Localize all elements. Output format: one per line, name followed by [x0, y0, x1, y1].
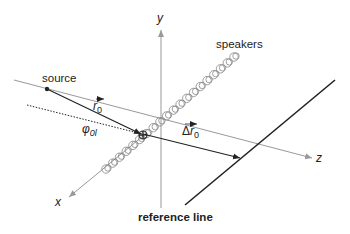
speaker-icon: [223, 59, 231, 67]
speaker-icon: [196, 82, 204, 90]
reference-line: [185, 80, 335, 205]
speaker-icon: [122, 147, 130, 155]
speaker-icon: [230, 53, 238, 61]
speaker-icon: [169, 106, 177, 114]
speakers-label: speakers: [216, 39, 263, 51]
source-point: [45, 87, 49, 91]
wave-field-diagram: [0, 0, 350, 234]
speaker-icon: [129, 141, 137, 149]
active-speaker: [139, 131, 147, 139]
r0-subscript: 0: [97, 105, 102, 115]
reference-line-label: reference line: [138, 212, 213, 224]
phi-subscript: 0l: [90, 128, 97, 138]
speaker-icon: [176, 100, 184, 108]
delta-r0-label: Δr0: [182, 125, 199, 140]
r0-label: r0: [93, 100, 102, 115]
speaker-array: [102, 53, 239, 173]
phi-symbol: φ: [82, 122, 90, 136]
speaker-icon: [162, 112, 170, 120]
phi0l-label: φ0l: [82, 123, 97, 138]
speaker-icon: [156, 118, 164, 126]
delta-r0-subscript: 0: [194, 130, 199, 140]
speaker-icon: [149, 124, 157, 132]
y-axis-label: y: [157, 12, 163, 24]
speaker-icon: [189, 88, 197, 96]
speaker-icon: [216, 65, 224, 73]
z-axis-label: z: [316, 152, 322, 164]
speaker-icon: [203, 76, 211, 84]
speaker-icon: [210, 71, 218, 79]
source-label: source: [42, 73, 77, 85]
x-axis-label: x: [55, 196, 61, 208]
delta-symbol: Δ: [182, 124, 190, 138]
speaker-icon: [183, 94, 191, 102]
